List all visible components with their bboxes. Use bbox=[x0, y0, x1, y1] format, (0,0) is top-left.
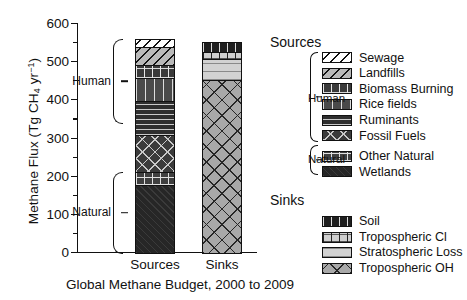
legend-item-fossil-fuels[interactable]: Fossil Fuels bbox=[322, 128, 464, 144]
segment-stratospheric-loss[interactable] bbox=[203, 60, 241, 81]
legend-label-soil: Soil bbox=[359, 215, 380, 228]
legend-label-stratospheric-loss: Stratospheric Loss bbox=[359, 246, 463, 259]
segment-wetlands[interactable] bbox=[136, 186, 174, 253]
swatch-wetlands-icon bbox=[322, 166, 352, 177]
segment-landfills[interactable] bbox=[136, 48, 174, 65]
legend-group-sources: Human Sewage Landfills Biomass Burning R… bbox=[322, 50, 464, 180]
legend-item-wetlands[interactable]: Wetlands bbox=[322, 164, 464, 180]
y-minortick-150 bbox=[73, 195, 77, 196]
y-tick-300 bbox=[71, 138, 77, 139]
legend-group-label-human: Human bbox=[308, 92, 320, 104]
plot-area: 600 500 400 300 200 100 0 Human Natural bbox=[77, 23, 257, 252]
y-tick-500 bbox=[71, 61, 77, 62]
legend-label-rice-fields: Rice fields bbox=[359, 98, 417, 111]
y-ticklabel-500: 500 bbox=[46, 54, 69, 69]
segment-tropospheric-oh[interactable] bbox=[203, 81, 241, 253]
legend-label-other-natural: Other Natural bbox=[359, 150, 434, 163]
swatch-soil-icon bbox=[322, 216, 352, 227]
bar-sinks[interactable] bbox=[202, 42, 242, 254]
legend-item-ruminants[interactable]: Ruminants bbox=[322, 112, 464, 128]
y-ticklabel-600: 600 bbox=[46, 16, 69, 31]
legend-item-stratospheric-loss[interactable]: Stratospheric Loss bbox=[322, 245, 464, 261]
y-minortick-550 bbox=[73, 42, 77, 43]
legend-item-tropospheric-oh[interactable]: Tropospheric OH bbox=[322, 261, 464, 277]
segment-soil[interactable] bbox=[203, 43, 241, 53]
legend-label-landfills: Landfills bbox=[359, 67, 405, 80]
segment-tropospheric-cl[interactable] bbox=[203, 53, 241, 61]
methane-budget-figure: Methane Flux (Tg CH4 yr−1) 600 500 400 3… bbox=[0, 0, 467, 300]
bracket-natural-label: Natural bbox=[53, 205, 111, 219]
segment-biomass-burning[interactable] bbox=[136, 66, 174, 79]
legend-item-tropospheric-cl[interactable]: Tropospheric Cl bbox=[322, 229, 464, 245]
legend: Sources Human Sewage Landfills Biomass B… bbox=[268, 34, 464, 276]
legend-label-ruminants: Ruminants bbox=[359, 114, 419, 127]
segment-fossil-fuels[interactable] bbox=[136, 136, 174, 173]
legend-item-landfills[interactable]: Landfills bbox=[322, 66, 464, 82]
legend-label-wetlands: Wetlands bbox=[359, 166, 411, 179]
legend-label-sewage: Sewage bbox=[359, 52, 404, 65]
y-tick-200 bbox=[71, 176, 77, 177]
bar-sources[interactable] bbox=[135, 39, 175, 254]
legend-item-soil[interactable]: Soil bbox=[322, 214, 464, 230]
y-tick-600 bbox=[71, 23, 77, 24]
swatch-landfills-icon bbox=[322, 68, 352, 79]
legend-label-tropospheric-cl: Tropospheric Cl bbox=[359, 231, 447, 244]
legend-item-sewage[interactable]: Sewage bbox=[322, 50, 464, 66]
legend-label-fossil-fuels: Fossil Fuels bbox=[359, 130, 426, 143]
y-axis-label: Methane Flux (Tg CH4 yr−1) bbox=[26, 21, 42, 261]
legend-heading-sinks: Sinks bbox=[270, 192, 464, 208]
legend-label-biomass-burning: Biomass Burning bbox=[359, 83, 454, 96]
y-ticklabel-0: 0 bbox=[61, 245, 69, 260]
y-tick-400 bbox=[71, 99, 77, 100]
swatch-ruminants-icon bbox=[322, 115, 352, 126]
y-ticklabel-400: 400 bbox=[46, 92, 69, 107]
bar-label-sinks: Sinks bbox=[162, 257, 282, 272]
y-ticklabel-200: 200 bbox=[46, 168, 69, 183]
swatch-tropospheric-oh-icon bbox=[322, 263, 352, 274]
swatch-fossil-fuels-icon bbox=[322, 130, 352, 141]
legend-label-tropospheric-oh: Tropospheric OH bbox=[359, 262, 454, 275]
y-minortick-250 bbox=[73, 157, 77, 158]
bracket-human bbox=[113, 39, 123, 124]
y-tick-0 bbox=[71, 252, 77, 253]
swatch-stratospheric-loss-icon bbox=[322, 247, 352, 258]
segment-other-natural[interactable] bbox=[136, 173, 174, 186]
segment-rice-fields[interactable] bbox=[136, 79, 174, 102]
swatch-tropospheric-cl-icon bbox=[322, 232, 352, 243]
y-minortick-350 bbox=[73, 118, 77, 119]
swatch-sewage-icon bbox=[322, 52, 352, 63]
legend-group-sinks: Soil Tropospheric Cl Stratospheric Loss … bbox=[322, 214, 464, 276]
segment-ruminants[interactable] bbox=[136, 102, 174, 136]
bracket-human-label: Human bbox=[59, 74, 111, 88]
segment-sewage[interactable] bbox=[136, 40, 174, 48]
bracket-natural bbox=[113, 172, 123, 254]
legend-group-label-natural: Natural bbox=[308, 153, 320, 165]
chart-caption: Global Methane Budget, 2000 to 2009 bbox=[0, 277, 360, 292]
legend-heading-sources: Sources bbox=[270, 34, 464, 50]
y-minortick-50 bbox=[73, 233, 77, 234]
y-ticklabel-300: 300 bbox=[46, 130, 69, 145]
